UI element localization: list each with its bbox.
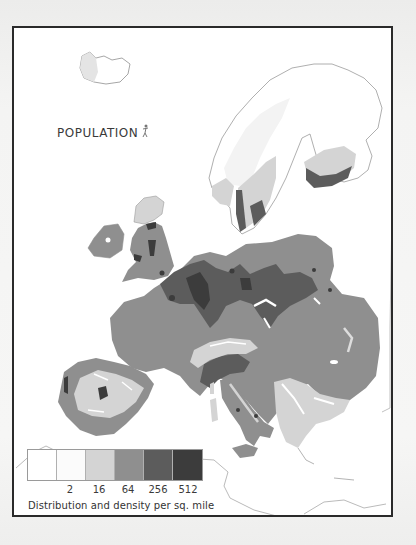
legend-tick-labels: 2 16 64 256 512 — [27, 484, 207, 498]
legend-tick: 2 — [67, 484, 73, 495]
british-isles — [88, 196, 174, 282]
legend-swatch-2-16 — [57, 450, 86, 480]
legend-swatch-64-256 — [115, 450, 144, 480]
scandinavia — [209, 64, 382, 234]
legend-tick: 512 — [178, 484, 197, 495]
legend-tick: 16 — [93, 484, 106, 495]
legend-tick: 64 — [122, 484, 135, 495]
legend-tick: 256 — [148, 484, 167, 495]
legend-swatch-over-512 — [173, 450, 202, 480]
legend-swatch-16-64 — [86, 450, 115, 480]
map-frame: POPULATION 2 16 64 256 512 Distribution … — [12, 26, 393, 517]
legend-swatches — [27, 449, 203, 481]
human-figure-icon — [140, 124, 150, 138]
legend-swatch-256-512 — [144, 450, 173, 480]
map-title: POPULATION — [57, 126, 138, 140]
legend-caption: Distribution and density per sq. mile — [28, 500, 214, 511]
europe-population-map — [14, 28, 393, 517]
legend-swatch-0-2 — [28, 450, 57, 480]
eastern-border-line — [382, 210, 392, 412]
iceland — [80, 52, 130, 84]
